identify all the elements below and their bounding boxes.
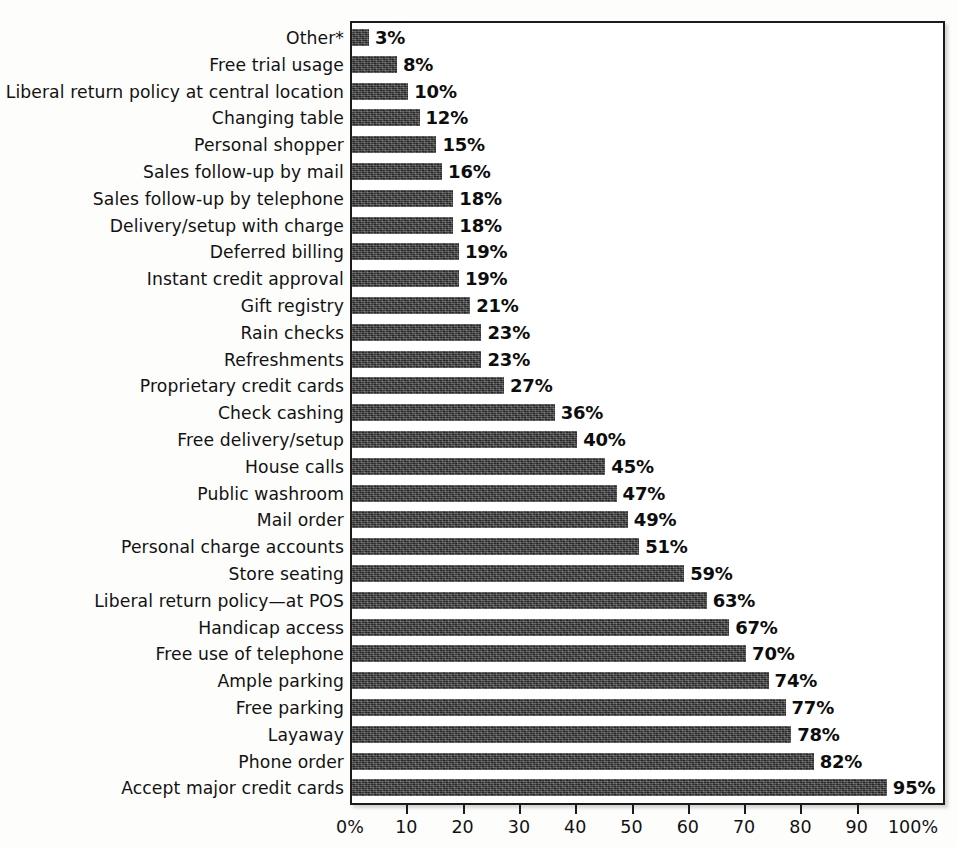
category-label: Public washroom [0,481,344,508]
x-axis-tick [744,805,746,814]
category-label: Ample parking [0,668,344,695]
category-label: Instant credit approval [0,266,344,293]
bar [352,672,769,689]
bar [352,163,442,180]
bar [352,431,577,448]
category-label: Gift registry [0,293,344,320]
bar-value-label: 67% [735,616,777,639]
bar-row: Store seating59% [0,561,957,588]
bar [352,56,397,73]
bar-row: Gift registry21% [0,293,957,320]
bar-value-label: 18% [459,214,501,237]
bar-value-label: 78% [797,723,839,746]
bar-value-label: 49% [634,508,676,531]
bar-row: Deferred billing19% [0,239,957,266]
bar-value-label: 40% [583,428,625,451]
category-label: House calls [0,454,344,481]
bar-row: Handicap access67% [0,615,957,642]
bar-value-label: 74% [775,669,817,692]
bar-value-label: 63% [713,589,755,612]
bar-row: Proprietary credit cards27% [0,373,957,400]
bar-value-label: 51% [645,535,687,558]
x-axis-tick-label: 0% [336,815,364,839]
bar-value-label: 19% [465,267,507,290]
bar [352,458,605,475]
x-axis-tick-label: 20 [451,815,473,839]
bar-value-label: 47% [623,482,665,505]
x-axis-tick-label: 100% [888,815,938,839]
bar [352,270,459,287]
category-label: Liberal return policy at central locatio… [0,79,344,106]
bar [352,29,369,46]
bar-value-label: 10% [414,80,456,103]
category-label: Proprietary credit cards [0,373,344,400]
bar-row: Accept major credit cards95% [0,775,957,802]
bar [352,377,504,394]
bar-value-label: 23% [487,321,529,344]
bar-value-label: 18% [459,187,501,210]
bar [352,779,887,796]
category-label: Refreshments [0,347,344,374]
bar [352,538,639,555]
bar-chart: Other*3%Free trial usage8%Liberal return… [0,0,957,847]
category-label: Store seating [0,561,344,588]
bar [352,753,814,770]
bar-value-label: 95% [893,776,935,799]
bar-row: Changing table12% [0,105,957,132]
bar-row: Liberal return policy at central locatio… [0,79,957,106]
x-axis-tick [575,805,577,814]
category-label: Mail order [0,507,344,534]
bar-row: Delivery/setup with charge18% [0,213,957,240]
bar [352,136,436,153]
bar-row: Mail order49% [0,507,957,534]
bar-row: Sales follow-up by telephone18% [0,186,957,213]
x-axis-tick [406,805,408,814]
bar [352,217,453,234]
bar-row: Public washroom47% [0,481,957,508]
bar-row: Free parking77% [0,695,957,722]
bar-value-label: 27% [510,374,552,397]
bar-value-label: 19% [465,240,507,263]
category-label: Handicap access [0,615,344,642]
category-label: Other* [0,25,344,52]
bar-value-label: 8% [403,53,433,76]
bar [352,243,459,260]
bar [352,511,628,528]
category-label: Layaway [0,722,344,749]
bar-row: Other*3% [0,25,957,52]
bar [352,404,555,421]
category-label: Check cashing [0,400,344,427]
bar-value-label: 21% [476,294,518,317]
bar-row: House calls45% [0,454,957,481]
bar-value-label: 15% [442,133,484,156]
bar-row: Instant credit approval19% [0,266,957,293]
bar-row: Free trial usage8% [0,52,957,79]
bar [352,726,791,743]
category-label: Sales follow-up by mail [0,159,344,186]
category-label: Changing table [0,105,344,132]
bar [352,645,746,662]
category-label: Free use of telephone [0,641,344,668]
category-label: Phone order [0,749,344,776]
x-axis-tick-label: 10 [395,815,417,839]
x-axis-tick-label: 50 [620,815,642,839]
bar-row: Layaway78% [0,722,957,749]
bar-row: Ample parking74% [0,668,957,695]
x-axis-tick [800,805,802,814]
bar-row: Free delivery/setup40% [0,427,957,454]
bar-value-label: 45% [611,455,653,478]
category-label: Free parking [0,695,344,722]
category-label: Deferred billing [0,239,344,266]
bar [352,297,470,314]
bar-row: Check cashing36% [0,400,957,427]
bar [352,351,481,368]
x-axis-tick-label: 40 [564,815,586,839]
bar-row: Sales follow-up by mail16% [0,159,957,186]
bar-value-label: 12% [426,106,468,129]
bar [352,109,420,126]
x-axis-tick-label: 60 [677,815,699,839]
x-axis-tick-label: 90 [846,815,868,839]
category-label: Accept major credit cards [0,775,344,802]
bar-value-label: 16% [448,160,490,183]
x-axis-tick [463,805,465,814]
